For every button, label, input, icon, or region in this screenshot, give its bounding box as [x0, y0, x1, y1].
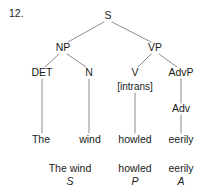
tree-node-NP: NP	[56, 42, 71, 53]
tree-node-Adv: Adv	[172, 103, 190, 114]
tree-edge-np-n	[67, 54, 86, 67]
function-label-predicate: P	[131, 176, 138, 187]
function-label-subject: S	[66, 176, 73, 187]
tree-leaf-the: The	[32, 134, 50, 145]
tree-node-S: S	[104, 10, 111, 21]
tree-leaf-howled: howled	[118, 134, 151, 145]
function-phrase-subject: The wind	[49, 163, 92, 174]
tree-edge-vp-advp	[159, 54, 177, 67]
tree-edge-s-vp	[112, 22, 151, 42]
tree-node-V: V	[131, 67, 138, 78]
tree-node-N: N	[85, 67, 93, 78]
tree-node-VP: VP	[148, 42, 162, 53]
tree-edge-s-np	[68, 22, 104, 42]
tree-edge-vp-v	[138, 54, 151, 67]
tree-node-intrans: [intrans]	[117, 82, 153, 93]
tree-leaf-eerily: eerily	[168, 134, 193, 145]
tree-leaf-wind: wind	[79, 134, 101, 145]
function-phrase-adverbial: eerily	[168, 163, 193, 174]
function-phrase-predicate: howled	[118, 163, 151, 174]
function-label-adverbial: A	[177, 176, 184, 187]
tree-edge-np-det	[45, 54, 59, 67]
tree-node-DET: DET	[32, 67, 53, 78]
tree-node-AdvP: AdvP	[168, 67, 193, 78]
